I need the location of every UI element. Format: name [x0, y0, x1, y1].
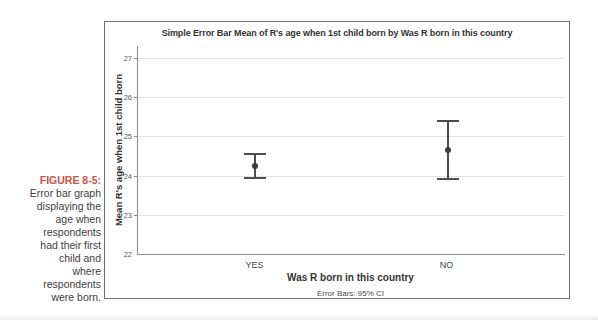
figure-caption-line: were born.	[6, 291, 101, 304]
y-tick-label: 26	[108, 93, 132, 102]
figure-caption-line: where	[6, 265, 101, 278]
figure-caption-line: respondents	[6, 278, 101, 291]
figure-caption-line: Error bar graph	[6, 187, 101, 200]
figure-caption-line: age when	[6, 213, 101, 226]
figure-caption-line: had their first	[6, 239, 101, 252]
mean-marker	[445, 147, 451, 153]
error-bar-cap	[244, 177, 266, 179]
y-tick-label: 25	[108, 132, 132, 141]
mean-marker	[252, 163, 258, 169]
figure-caption-line: child and	[6, 252, 101, 265]
plot-area	[137, 46, 565, 255]
figure-caption: FIGURE 8-5: Error bar graph displaying t…	[6, 174, 101, 304]
gridline	[138, 176, 565, 177]
y-tick-mark	[134, 97, 138, 98]
page-bottom-shade	[0, 314, 598, 320]
y-tick-label: 27	[108, 54, 132, 63]
y-tick-mark	[134, 136, 138, 137]
x-tick-label: NO	[440, 260, 454, 270]
y-tick-mark	[134, 215, 138, 216]
figure-caption-label: FIGURE 8-5:	[6, 174, 101, 187]
error-bar-cap	[437, 120, 459, 122]
error-bar-cap	[244, 153, 266, 155]
gridline	[138, 136, 565, 137]
gridline	[138, 215, 565, 216]
page: FIGURE 8-5: Error bar graph displaying t…	[0, 0, 598, 320]
error-bars-footnote: Error Bars: 95% CI	[137, 289, 564, 298]
y-tick-mark	[134, 58, 138, 59]
chart-title: Simple Error Bar Mean of R's age when 1s…	[105, 28, 569, 38]
chart-frame: Simple Error Bar Mean of R's age when 1s…	[104, 21, 570, 299]
y-tick-label: 24	[108, 172, 132, 181]
error-bar-cap	[437, 178, 459, 180]
figure-caption-line: displaying the	[6, 200, 101, 213]
x-axis-title: Was R born in this country	[137, 272, 564, 283]
gridline	[138, 58, 565, 59]
x-tick-label: YES	[245, 260, 263, 270]
y-tick-label: 23	[108, 211, 132, 220]
gridline	[138, 97, 565, 98]
y-tick-mark	[134, 176, 138, 177]
y-tick-label: 22	[108, 250, 132, 259]
figure-caption-line: respondents	[6, 226, 101, 239]
